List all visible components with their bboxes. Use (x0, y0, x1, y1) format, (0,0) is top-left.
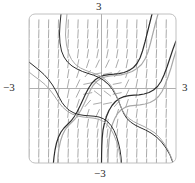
axis-label-left: −3 (3, 82, 15, 93)
axis-label-right: 3 (182, 82, 188, 93)
axis-label-bottom: −3 (94, 168, 106, 179)
slope-field-figure (0, 0, 195, 183)
axis-label-top: 3 (96, 1, 102, 12)
